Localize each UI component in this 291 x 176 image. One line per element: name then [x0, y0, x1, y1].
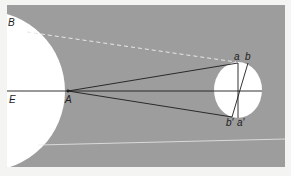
point-A-dot	[67, 90, 70, 93]
label-a-prime: a′	[237, 117, 246, 128]
optics-diagram: B E A a b b′ a′	[0, 0, 291, 176]
label-A: A	[64, 94, 72, 105]
label-E: E	[9, 94, 16, 105]
label-b: b	[245, 51, 251, 62]
label-a: a	[234, 51, 240, 62]
label-b-prime: b′	[226, 117, 235, 128]
label-B: B	[8, 17, 15, 28]
